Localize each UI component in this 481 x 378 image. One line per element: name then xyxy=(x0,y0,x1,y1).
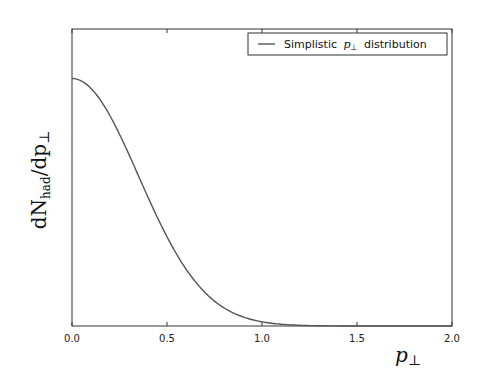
x-tick-label: 1.5 xyxy=(349,333,365,344)
x-axis-ticks xyxy=(72,29,452,326)
data-line xyxy=(72,79,452,327)
y-axis-label: dNhad/dp⊥ xyxy=(27,131,53,229)
x-tick-label: 1.0 xyxy=(254,333,270,344)
x-tick-label: 2.0 xyxy=(444,333,460,344)
x-tick-label: 0.5 xyxy=(159,333,175,344)
x-axis-label: p⊥ xyxy=(395,343,421,368)
chart: 0.00.51.01.52.0 Simplistic p⊥ distributi… xyxy=(0,0,481,378)
x-tick-label: 0.0 xyxy=(64,333,80,344)
legend: Simplistic p⊥ distribution xyxy=(248,33,447,55)
plot-frame xyxy=(72,29,452,326)
